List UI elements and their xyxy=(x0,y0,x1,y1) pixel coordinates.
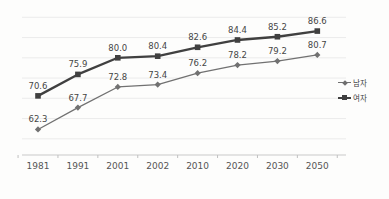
data-point-marker xyxy=(195,44,201,50)
data-label: 75.9 xyxy=(68,59,87,69)
legend-label-male: 남자 xyxy=(353,77,367,88)
x-axis-label: 1991 xyxy=(66,161,89,171)
male-series-marker-icon xyxy=(338,79,351,87)
data-label: 80.0 xyxy=(108,43,127,53)
data-label: 73.4 xyxy=(148,70,167,80)
data-point-marker xyxy=(274,58,280,64)
data-label: 62.3 xyxy=(29,114,48,124)
data-point-marker xyxy=(314,52,320,58)
data-label: 84.4 xyxy=(228,25,247,35)
legend-item-female: 여자 xyxy=(338,92,367,103)
legend-label-female: 여자 xyxy=(353,92,367,103)
data-label: 79.2 xyxy=(268,46,287,56)
data-point-marker xyxy=(35,126,41,132)
data-label: 72.8 xyxy=(108,72,127,82)
data-point-marker xyxy=(115,55,121,61)
chart-svg: 62.367.772.873.476.278.279.280.770.675.9… xyxy=(0,0,389,199)
data-point-marker xyxy=(75,105,81,111)
data-point-marker xyxy=(234,62,240,68)
data-point-marker xyxy=(235,37,241,43)
data-point-marker xyxy=(35,93,41,99)
data-point-marker xyxy=(155,53,161,59)
data-point-marker xyxy=(275,34,281,40)
x-axis-label: 2050 xyxy=(306,161,329,171)
x-axis-label: 1981 xyxy=(27,161,50,171)
x-axis-label: 2001 xyxy=(106,161,129,171)
x-axis-label: 2010 xyxy=(186,161,209,171)
data-label: 85.2 xyxy=(268,22,287,32)
data-label: 70.6 xyxy=(29,81,48,91)
x-axis-label: 2002 xyxy=(146,161,169,171)
data-point-marker xyxy=(75,72,81,78)
line-chart: 62.367.772.873.476.278.279.280.770.675.9… xyxy=(0,0,389,199)
legend: 남자 여자 xyxy=(338,77,367,103)
data-point-marker xyxy=(155,81,161,87)
female-series-marker-icon xyxy=(338,94,351,102)
data-point-marker xyxy=(115,84,121,90)
x-axis-label: 2030 xyxy=(266,161,289,171)
data-label: 78.2 xyxy=(228,50,247,60)
data-label: 76.2 xyxy=(188,58,207,68)
data-label: 80.7 xyxy=(308,40,327,50)
data-label: 86.6 xyxy=(308,16,327,26)
data-label: 82.6 xyxy=(188,32,207,42)
legend-item-male: 남자 xyxy=(338,77,367,88)
data-label: 67.7 xyxy=(68,93,87,103)
data-point-marker xyxy=(194,70,200,76)
data-point-marker xyxy=(315,28,321,34)
data-label: 80.4 xyxy=(148,41,167,51)
x-axis-label: 2020 xyxy=(226,161,249,171)
